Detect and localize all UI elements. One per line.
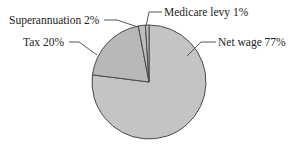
label-superannuation: Superannuation 2% [9,14,100,27]
label-tax: Tax 20% [23,36,64,48]
leader-superannuation [104,20,138,27]
leader-tax [69,42,97,55]
pie-slices [92,25,206,139]
pie-chart: Net wage 77% Tax 20% Superannuation 2% M… [0,0,292,145]
leader-medicare [146,12,162,26]
label-medicare: Medicare levy 1% [164,6,249,19]
label-net-wage: Net wage 77% [218,36,286,49]
